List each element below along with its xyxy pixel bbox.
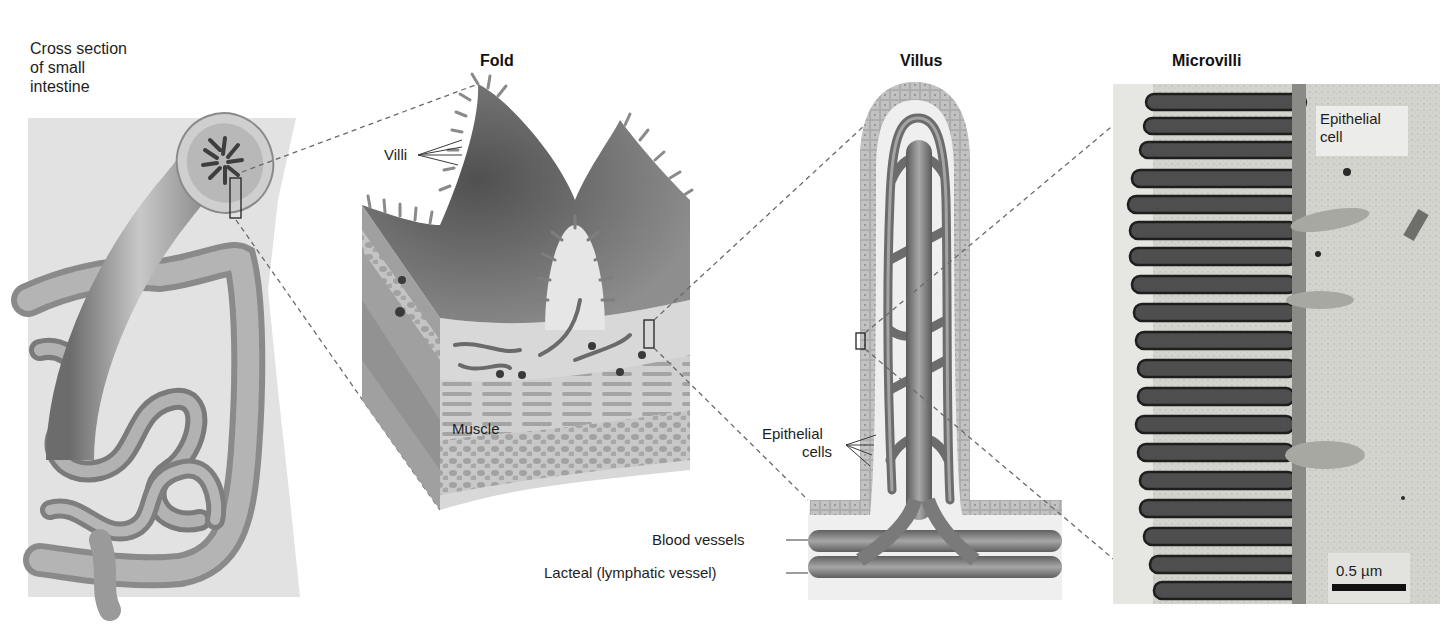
epithelial-cell-label-line1: Epithelial — [1320, 110, 1381, 128]
fold-title: Fold — [480, 52, 514, 70]
abdomen-illustration — [28, 100, 300, 610]
villi-pointer-lines — [418, 140, 462, 165]
fold-illustration — [362, 74, 692, 510]
villus-title: Villus — [900, 52, 942, 70]
microvilli-micrograph — [1113, 84, 1440, 604]
microvilli-title: Microvilli — [1172, 52, 1241, 70]
scale-bar — [1332, 584, 1406, 591]
lacteal-label: Lacteal (lymphatic vessel) — [544, 564, 717, 582]
epithelial-cell-label-line2: cell — [1320, 128, 1343, 146]
muscle-label: Muscle — [452, 420, 500, 438]
epithelial-cells-label-line1: Epithelial — [762, 425, 823, 443]
blood-vessels-label: Blood vessels — [652, 531, 745, 549]
villi-label: Villi — [384, 146, 407, 164]
scale-bar-label: 0.5 µm — [1336, 562, 1382, 580]
epithelial-cells-label-line2: cells — [802, 443, 832, 461]
